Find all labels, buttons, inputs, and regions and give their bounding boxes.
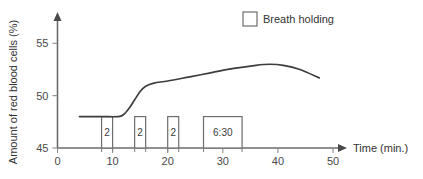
x-tick-label: 20 bbox=[162, 155, 174, 167]
breath-hold-bar-label: 6:30 bbox=[213, 127, 233, 138]
breath-hold-bar-label: 2 bbox=[137, 127, 143, 138]
breath-holding-chart: 455055 Amount of red blood cells (%) 010… bbox=[0, 0, 423, 179]
y-tick-label: 45 bbox=[36, 142, 48, 154]
breath-hold-bar-label: 2 bbox=[104, 127, 110, 138]
red-blood-cells-curve bbox=[80, 64, 320, 117]
y-axis-arrowhead bbox=[54, 12, 62, 21]
legend-label-breath-holding: Breath holding bbox=[263, 13, 334, 25]
x-axis-arrowhead bbox=[338, 144, 347, 152]
y-axis-ticks: 455055 bbox=[36, 37, 57, 154]
x-axis-ticks: 01020304050 bbox=[54, 148, 339, 167]
legend-swatch-breath-holding bbox=[243, 12, 257, 26]
x-tick-label: 40 bbox=[272, 155, 284, 167]
y-tick-label: 50 bbox=[36, 90, 48, 102]
x-tick-label: 0 bbox=[54, 155, 60, 167]
chart-canvas: 455055 Amount of red blood cells (%) 010… bbox=[0, 0, 423, 179]
y-tick-label: 55 bbox=[36, 37, 48, 49]
breath-hold-bar-label: 2 bbox=[170, 127, 176, 138]
x-tick-label: 10 bbox=[106, 155, 118, 167]
x-tick-label: 50 bbox=[327, 155, 339, 167]
x-tick-label: 30 bbox=[217, 155, 229, 167]
breath-holding-bars: 2226:30 bbox=[102, 117, 243, 148]
y-axis-title: Amount of red blood cells (%) bbox=[7, 20, 19, 164]
y-axis-group: 455055 Amount of red blood cells (%) bbox=[7, 12, 62, 164]
x-axis-title: Time (min.) bbox=[353, 142, 408, 154]
chart-legend: Breath holding bbox=[243, 12, 334, 26]
